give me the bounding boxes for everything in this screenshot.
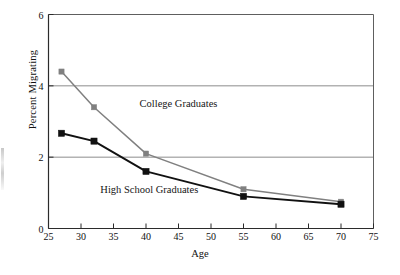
data-point-marker (91, 138, 97, 144)
data-point-marker (143, 168, 149, 174)
x-tick-label: 40 (141, 231, 151, 242)
data-point-marker (240, 193, 246, 199)
series-annotation-2: High School Graduates (100, 184, 198, 195)
data-point-marker (91, 105, 96, 110)
x-tick-label: 25 (44, 231, 54, 242)
data-point-marker (241, 187, 246, 192)
gridlines (49, 86, 374, 157)
x-axis-ticks (49, 224, 374, 229)
y-axis-title: Percent Migrating (27, 30, 38, 150)
x-tick-label: 45 (174, 231, 184, 242)
data-point-marker (59, 69, 64, 74)
series-line (62, 72, 342, 202)
x-tick-label: 30 (76, 231, 86, 242)
x-tick-label: 65 (304, 231, 314, 242)
x-tick-label: 55 (239, 231, 249, 242)
x-tick-label: 60 (271, 231, 281, 242)
plot-frame (49, 15, 374, 229)
x-tick-label: 75 (369, 231, 379, 242)
series-2 (58, 130, 344, 207)
series-annotation-1: College Graduates (140, 98, 218, 109)
data-point-marker (58, 130, 64, 136)
data-point-marker (143, 151, 148, 156)
x-axis-title: Age (0, 248, 400, 259)
y-tick-label: 2 (24, 152, 44, 163)
chart-figure: 2530354045505560657075 0246 College Grad… (0, 0, 400, 275)
y-axis-ticks (49, 15, 54, 229)
y-tick-label: 6 (24, 9, 44, 20)
x-tick-label: 50 (206, 231, 216, 242)
y-tick-label: 0 (24, 223, 44, 234)
x-tick-label: 35 (109, 231, 119, 242)
data-point-marker (338, 201, 344, 207)
x-tick-label: 70 (336, 231, 346, 242)
